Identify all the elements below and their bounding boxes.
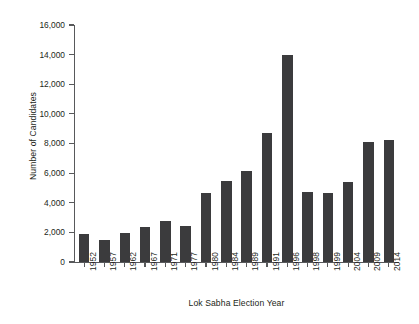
bar bbox=[140, 227, 151, 262]
y-tick: 10,000 bbox=[69, 113, 74, 114]
y-tick: 2,000 bbox=[69, 232, 74, 233]
y-tick: 16,000 bbox=[69, 24, 74, 25]
y-tick-label: 14,000 bbox=[39, 50, 65, 60]
bar bbox=[323, 193, 334, 262]
y-tick-label: 4,000 bbox=[44, 198, 65, 208]
y-tick: 0 bbox=[69, 261, 74, 262]
x-tick bbox=[246, 262, 247, 267]
x-tick bbox=[388, 262, 389, 267]
x-tick bbox=[226, 262, 227, 267]
y-tick-label: 12,000 bbox=[39, 79, 65, 89]
x-axis-title: Lok Sabha Election Year bbox=[74, 298, 399, 308]
bar bbox=[160, 221, 171, 262]
x-tick bbox=[104, 262, 105, 267]
bar bbox=[99, 240, 110, 263]
x-tick bbox=[84, 262, 85, 267]
x-tick bbox=[368, 262, 369, 267]
y-tick: 14,000 bbox=[69, 54, 74, 55]
bar bbox=[120, 233, 131, 262]
y-tick-label: 0 bbox=[60, 257, 65, 267]
y-tick-label: 2,000 bbox=[44, 227, 65, 237]
bar bbox=[221, 181, 232, 262]
bar bbox=[384, 140, 395, 262]
y-tick-label: 8,000 bbox=[44, 138, 65, 148]
y-tick: 6,000 bbox=[69, 173, 74, 174]
bar bbox=[201, 193, 212, 262]
y-tick: 12,000 bbox=[69, 84, 74, 85]
y-tick: 8,000 bbox=[69, 143, 74, 144]
y-tick-label: 16,000 bbox=[39, 20, 65, 30]
y-tick-label: 6,000 bbox=[44, 168, 65, 178]
x-tick bbox=[287, 262, 288, 267]
bar bbox=[343, 182, 354, 263]
x-tick bbox=[327, 262, 328, 267]
bar bbox=[79, 234, 90, 262]
bar bbox=[282, 55, 293, 262]
x-tick bbox=[144, 262, 145, 267]
y-axis-title: Number of Candidates bbox=[28, 41, 38, 231]
x-tick bbox=[165, 262, 166, 267]
y-tick-label: 10,000 bbox=[39, 109, 65, 119]
bar bbox=[180, 226, 191, 262]
y-tick: 4,000 bbox=[69, 202, 74, 203]
x-tick bbox=[205, 262, 206, 267]
x-tick bbox=[348, 262, 349, 267]
bar bbox=[302, 192, 313, 262]
plot-area: 02,0004,0006,0008,00010,00012,00014,0001… bbox=[74, 25, 399, 262]
x-tick bbox=[266, 262, 267, 267]
bar bbox=[363, 142, 374, 262]
bar-chart-figure: Number of Candidates 02,0004,0006,0008,0… bbox=[0, 0, 419, 324]
x-tick bbox=[124, 262, 125, 267]
bar bbox=[241, 171, 252, 262]
x-tick bbox=[307, 262, 308, 267]
x-tick bbox=[185, 262, 186, 267]
bar bbox=[262, 133, 273, 262]
y-axis-line bbox=[74, 25, 75, 262]
